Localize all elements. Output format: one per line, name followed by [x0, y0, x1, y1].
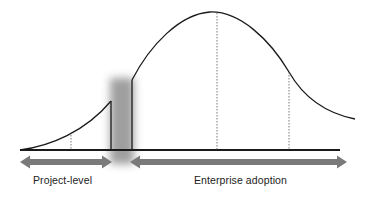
- project-level-arrow: [20, 156, 112, 169]
- enterprise-adoption-curve: [132, 12, 355, 119]
- transition-gap-shade: [110, 78, 134, 164]
- project-level-curve: [20, 101, 111, 150]
- enterprise-adoption-arrow: [130, 156, 347, 169]
- enterprise-adoption-label: Enterprise adoption: [194, 174, 287, 186]
- adoption-diagram: [0, 0, 374, 197]
- project-level-label: Project-level: [33, 174, 92, 186]
